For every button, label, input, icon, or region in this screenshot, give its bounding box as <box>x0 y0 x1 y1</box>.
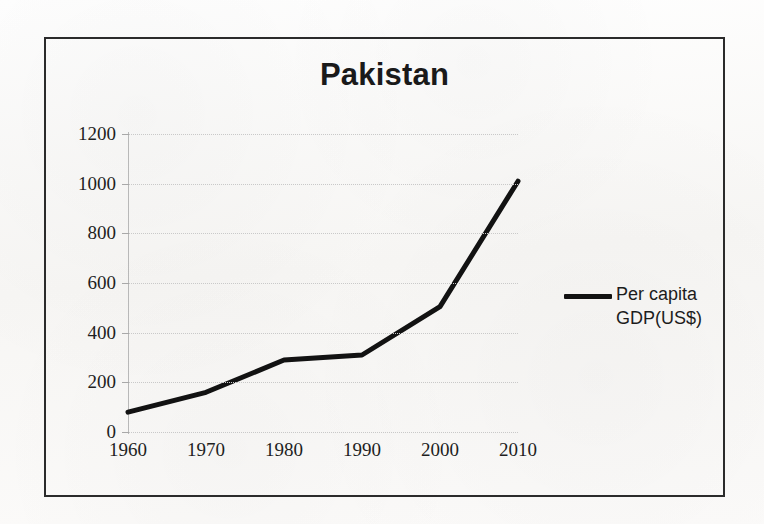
y-tick-mark-1200 <box>122 134 129 135</box>
legend-label-line-2: GDP(US$) <box>616 306 726 330</box>
legend-label-per-capita-gdp: Per capita GDP(US$) <box>616 282 726 331</box>
y-tick-mark-200 <box>122 382 129 383</box>
x-tick-label-1990: 1990 <box>343 439 381 461</box>
x-tick-label-2010: 2010 <box>499 439 537 461</box>
x-tick-label-1970: 1970 <box>187 439 225 461</box>
x-tick-label-2000: 2000 <box>421 439 459 461</box>
y-tick-mark-1000 <box>122 184 129 185</box>
y-tick-mark-0 <box>122 432 129 433</box>
legend-swatch-per-capita-gdp <box>564 294 612 299</box>
x-tick-label-1960: 1960 <box>109 439 147 461</box>
y-tick-mark-400 <box>122 333 129 334</box>
y-tick-mark-800 <box>122 233 129 234</box>
x-axis-labels: 196019701980199020002010 <box>46 39 723 495</box>
chart-frame: Pakistan 020040060080010001200 196019701… <box>44 37 725 497</box>
legend-label-line-1: Per capita <box>616 282 726 306</box>
y-tick-mark-600 <box>122 283 129 284</box>
x-tick-label-1980: 1980 <box>265 439 303 461</box>
